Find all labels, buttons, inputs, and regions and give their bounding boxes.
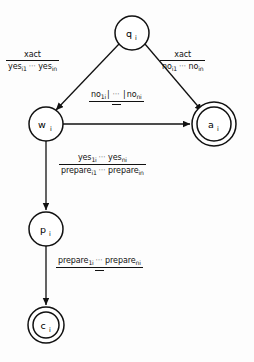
node-q[interactable]: q i xyxy=(115,16,149,50)
node-q-subscript: i xyxy=(135,34,137,42)
prepare-first: prepare xyxy=(61,166,91,175)
no-first: no xyxy=(91,90,101,99)
node-c-label: c xyxy=(40,320,45,331)
edge-label-w-to-a-numerator: no1i|⋯|noni xyxy=(89,90,144,102)
node-w-circle xyxy=(29,107,63,141)
node-p[interactable]: p i xyxy=(29,212,63,246)
edge-label-w-to-p-numerator: yes1i⋯yesni xyxy=(59,153,146,165)
prepare-last-sub: in xyxy=(139,169,144,176)
edge-label-p-to-c: prepare1i⋯prepareni xyxy=(56,256,143,271)
prepare-last: prepare xyxy=(105,256,135,265)
state-diagram-figure: q i w i a i p i c i xyxy=(0,0,254,362)
prepare-last: prepare xyxy=(108,166,138,175)
edge-label-w-to-a-denominator-dash xyxy=(112,104,121,105)
yes-last: yes xyxy=(38,62,52,71)
edge-label-w-to-a: no1i|⋯|noni xyxy=(89,90,144,105)
yes-first: yes xyxy=(8,62,22,71)
no-last: no xyxy=(188,62,198,71)
node-w-subscript: i xyxy=(50,125,52,133)
ellipsis-icon: ⋯ xyxy=(94,256,106,264)
node-q-label: q xyxy=(126,28,132,39)
node-c-inner-circle xyxy=(33,312,59,338)
edge-label-p-to-c-numerator: prepare1i⋯prepareni xyxy=(56,256,143,268)
node-a[interactable]: a i xyxy=(192,102,236,146)
edge-label-q-to-w-numerator: xact xyxy=(6,50,59,61)
edge-label-w-to-p-denominator: preparei1⋯preparein xyxy=(59,165,146,176)
node-a-inner-circle xyxy=(197,107,231,141)
edge-label-q-to-a: xact noi1⋯noin xyxy=(160,50,205,72)
ellipsis-icon: ⋯ xyxy=(97,166,109,174)
edge-label-q-to-w-denominator: yesi1⋯yesin xyxy=(6,61,59,72)
node-w[interactable]: w i xyxy=(29,107,63,141)
edge-label-q-to-w: xact yesi1⋯yesin xyxy=(6,50,59,72)
prepare-first: prepare xyxy=(58,256,88,265)
ellipsis-icon: ⋯ xyxy=(97,153,109,161)
edge-label-q-to-a-denominator: noi1⋯noin xyxy=(160,61,205,72)
ellipsis-icon: ⋯ xyxy=(177,62,189,70)
prepare-last-sub: ni xyxy=(136,259,141,266)
yes-last-sub: in xyxy=(52,65,57,72)
no-last-sub: in xyxy=(198,65,203,72)
node-p-label: p xyxy=(40,224,46,235)
no-first: no xyxy=(162,62,172,71)
node-a-subscript: i xyxy=(217,125,219,133)
node-c[interactable]: c i xyxy=(28,307,64,343)
node-p-subscript: i xyxy=(49,230,51,238)
ellipsis-icon: ⋯ xyxy=(111,90,123,98)
yes-last-sub: ni xyxy=(122,156,127,163)
edge-label-w-to-p: yes1i⋯yesni preparei1⋯preparein xyxy=(59,153,146,176)
node-a-label: a xyxy=(208,119,214,130)
ellipsis-icon: ⋯ xyxy=(27,62,39,70)
edge-label-p-to-c-denominator-dash xyxy=(95,270,104,271)
no-last-sub: ni xyxy=(136,93,141,100)
no-last: no xyxy=(127,90,137,99)
node-c-subscript: i xyxy=(49,326,51,334)
edge-label-q-to-a-numerator: xact xyxy=(160,50,205,61)
yes-first: yes xyxy=(78,153,92,162)
node-w-label: w xyxy=(38,119,46,130)
yes-last: yes xyxy=(108,153,122,162)
